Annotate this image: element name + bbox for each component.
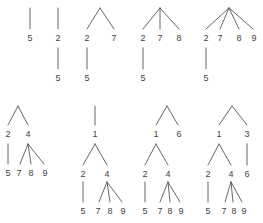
tree-9-node-5: 5 — [201, 207, 215, 216]
tree-2-node-5: 5 — [51, 74, 65, 83]
tree-8-node-1: 1 — [149, 130, 163, 139]
tree-2-node-2: 2 — [51, 34, 65, 43]
tree-8-node-5: 5 — [138, 207, 152, 216]
tree-1-node-5: 5 — [23, 34, 37, 43]
tree-9-node-9: 9 — [237, 207, 251, 216]
tree-3-node-7: 7 — [107, 34, 121, 43]
tree-7-edges — [83, 106, 122, 202]
tree-8-node-6: 6 — [172, 130, 186, 139]
tree-5-node-7: 7 — [213, 34, 227, 43]
tree-8-node-2: 2 — [138, 170, 152, 179]
tree-5-node-8: 8 — [232, 34, 246, 43]
tree-5-node-5: 5 — [199, 74, 213, 83]
tree-5-node-2: 2 — [199, 34, 213, 43]
tree-9-node-2: 2 — [201, 170, 215, 179]
tree-3-node-2: 2 — [80, 34, 94, 43]
tree-6-node-2: 2 — [1, 130, 15, 139]
tree-7-node-4: 4 — [100, 170, 114, 179]
tree-diagram-figure: 5 2 5 2 7 5 2 7 8 5 2 7 8 9 5 2 4 5 7 8 … — [0, 0, 263, 223]
tree-7-node-5: 5 — [76, 207, 90, 216]
tree-7-node-2: 2 — [76, 170, 90, 179]
tree-7-node-1: 1 — [88, 130, 102, 139]
tree-6-node-8: 8 — [24, 169, 38, 178]
tree-4-node-2: 2 — [136, 34, 150, 43]
tree-9-edges — [208, 106, 247, 202]
tree-6-node-9: 9 — [38, 169, 52, 178]
tree-4-node-7: 7 — [153, 34, 167, 43]
tree-6-node-4: 4 — [21, 130, 35, 139]
tree-8-node-9: 9 — [174, 207, 188, 216]
tree-9-node-3: 3 — [240, 130, 254, 139]
tree-9-node-6: 6 — [240, 170, 254, 179]
tree-9-node-1: 1 — [212, 130, 226, 139]
tree-8-node-4: 4 — [161, 170, 175, 179]
tree-3-node-5: 5 — [80, 74, 94, 83]
tree-7-node-8: 8 — [103, 207, 117, 216]
tree-4-node-8: 8 — [172, 34, 186, 43]
tree-5-node-9: 9 — [247, 34, 261, 43]
tree-4-node-5: 5 — [136, 74, 150, 83]
tree-7-node-9: 9 — [116, 207, 130, 216]
tree-9-node-4: 4 — [224, 170, 238, 179]
tree-8-edges — [145, 106, 180, 202]
